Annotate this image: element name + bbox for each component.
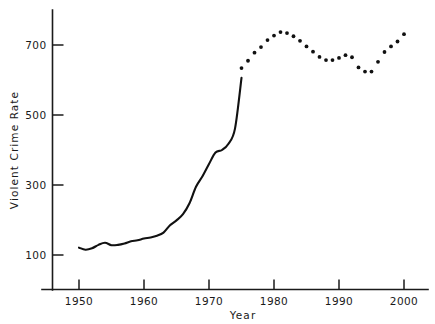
data-point-marker — [402, 32, 406, 36]
y-axis-label-text: Violent Crime Rate — [8, 91, 20, 209]
data-point-marker — [324, 58, 328, 62]
data-point-marker — [285, 31, 289, 35]
data-point-marker — [396, 40, 400, 44]
data-point-marker — [344, 53, 348, 57]
data-point-marker — [259, 45, 263, 49]
data-point-marker — [240, 66, 244, 70]
data-point-marker — [266, 38, 270, 42]
dotted-marker-series — [240, 30, 406, 73]
y-tick-label: 700 — [25, 39, 46, 51]
data-point-marker — [370, 70, 374, 74]
y-axis-ticks: 100300500700 — [25, 39, 63, 261]
data-point-marker — [389, 45, 393, 49]
data-point-marker — [331, 58, 335, 62]
x-tick-label: 2000 — [390, 295, 418, 307]
chart-figure: 100300500700 195019601970198019902000 Vi… — [0, 0, 435, 324]
data-point-marker — [246, 59, 250, 63]
data-point-marker — [253, 51, 257, 55]
violent-crime-rate-line-chart: 100300500700 195019601970198019902000 Vi… — [0, 0, 435, 324]
data-point-marker — [305, 45, 309, 49]
data-point-marker — [298, 39, 302, 43]
data-point-marker — [272, 34, 276, 38]
data-point-marker — [376, 60, 380, 64]
x-tick-label: 1960 — [130, 295, 158, 307]
data-point-marker — [279, 30, 283, 34]
y-tick-label: 300 — [25, 179, 46, 191]
y-tick-label: 100 — [25, 249, 46, 261]
data-point-marker — [318, 55, 322, 59]
data-point-marker — [311, 50, 315, 54]
data-point-marker — [337, 56, 341, 60]
solid-line-series — [79, 78, 242, 250]
x-axis-ticks: 195019601970198019902000 — [65, 280, 418, 307]
x-tick-label: 1990 — [325, 295, 353, 307]
data-point-marker — [350, 55, 354, 59]
x-tick-label: 1950 — [65, 295, 93, 307]
data-point-marker — [383, 50, 387, 54]
y-tick-label: 500 — [25, 109, 46, 121]
data-point-marker — [292, 34, 296, 38]
data-point-marker — [357, 66, 361, 70]
x-axis-label-text: Year — [229, 309, 257, 321]
x-tick-label: 1980 — [260, 295, 288, 307]
x-tick-label: 1970 — [195, 295, 223, 307]
y-axis-label: Violent Crime Rate — [8, 91, 20, 209]
data-point-marker — [363, 70, 367, 74]
